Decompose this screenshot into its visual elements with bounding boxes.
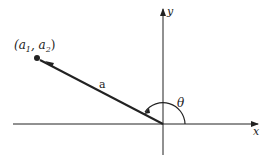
- angle-label: θ: [177, 96, 185, 110]
- vector-label: a: [99, 78, 106, 91]
- x-axis-label: x: [253, 125, 260, 138]
- point-label: (a1, a2): [14, 38, 56, 54]
- y-axis-label: y: [166, 5, 174, 18]
- point-dot: [34, 55, 40, 61]
- vector-a: [40, 60, 163, 124]
- vector-angle-diagram: (a1, a2) a θ x y: [0, 0, 273, 160]
